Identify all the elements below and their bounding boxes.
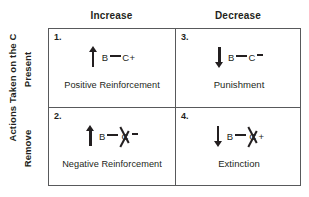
expression: B C [99,131,138,142]
cell-punishment: 3. B C Punishment [176,29,302,107]
up-arrow-icon [86,125,95,147]
link-dash-icon [110,55,121,56]
link-dash-icon [235,134,246,135]
consequence-symbol: C [122,52,129,63]
notation-expression: B C + [176,123,302,149]
cell-number: 2. [54,111,62,121]
valence-sign: + [129,52,135,63]
row-label-remove: Remove [22,109,33,188]
link-dash-icon [236,55,247,56]
matrix-grid: 1. B C + Positive Reinforcement 3. [48,28,301,186]
cell-caption: Punishment [176,79,302,90]
valence-sign [257,54,263,55]
valence-sign [132,133,138,134]
consequence-symbol: C [248,52,255,63]
behavior-symbol: B [102,52,109,63]
cell-caption: Extinction [176,158,302,169]
behavior-symbol: B [228,52,235,63]
cell-extinction: 4. B C + Extinction [176,108,302,186]
expression: B C [228,52,263,63]
expression: B C + [102,52,135,63]
crossed-out-consequence-icon: C [247,131,258,142]
down-arrow-icon [215,46,224,68]
notation-expression: B C + [49,44,175,70]
cell-caption: Positive Reinforcement [49,80,175,90]
down-arrow-icon [214,125,223,147]
cell-number: 3. [181,32,189,42]
row-label-present: Present [22,30,33,109]
crossed-out-consequence-icon: C [120,131,131,142]
expression: B C + [227,131,264,142]
cell-number: 1. [54,32,62,42]
valence-sign: + [258,131,264,142]
column-header-decrease: Decrease [175,10,301,21]
notation-expression: B C [176,44,302,70]
cell-caption: Negative Reinforcement [49,159,175,169]
contingency-matrix-diagram: Actions Taken on the C Present Remove In… [0,0,309,197]
cell-negative-reinforcement: 2. B C Negative Reinforcement [49,108,175,186]
up-arrow-icon [89,46,98,68]
behavior-symbol: B [227,131,234,142]
cell-positive-reinforcement: 1. B C + Positive Reinforcement [49,29,175,107]
notation-expression: B C [49,123,175,149]
behavior-symbol: B [99,131,106,142]
column-header-increase: Increase [48,10,175,21]
axis-label-actions-taken: Actions Taken on the C [7,8,18,168]
link-dash-icon [107,134,118,135]
cell-number: 4. [181,111,189,121]
